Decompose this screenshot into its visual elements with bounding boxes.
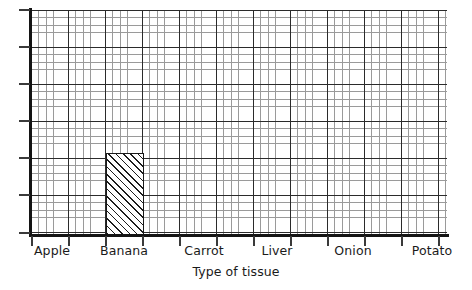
x-tick-label-apple: Apple [34,243,70,258]
x-axis-tick [401,236,403,246]
y-axis-tick [19,83,30,85]
bar-chart: Apple Banana Carrot Liver Onion Potato T… [0,0,472,290]
plot-area [31,10,447,235]
x-axis-tick [31,236,33,246]
x-axis [29,234,449,237]
x-tick-label-potato: Potato [412,243,452,258]
y-axis-tick [19,232,30,234]
x-tick-label-banana: Banana [100,243,148,258]
x-axis-tick [327,236,329,246]
x-axis-tick [253,236,255,246]
y-axis-tick [19,46,30,48]
x-tick-label-onion: Onion [334,243,371,258]
x-axis-tick [179,236,181,246]
y-axis-tick [19,157,30,159]
bar-banana[interactable] [106,153,144,235]
y-axis-tick [19,194,30,196]
x-tick-label-liver: Liver [261,243,292,258]
major-gridlines [31,10,447,235]
y-axis [29,8,32,237]
x-axis-title: Type of tissue [0,264,472,279]
x-tick-label-carrot: Carrot [184,243,223,258]
y-axis-tick [19,120,30,122]
y-axis-tick [19,9,30,11]
